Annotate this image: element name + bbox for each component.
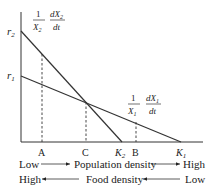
food-low-label: Low	[185, 172, 205, 186]
svg-text:1: 1	[36, 9, 41, 19]
svg-text:dX2: dX2	[50, 9, 63, 20]
svg-text:dX1: dX1	[146, 93, 159, 104]
food-high-label: High	[19, 172, 41, 186]
pop-low-label: Low	[19, 157, 39, 171]
line-species-2	[21, 31, 122, 142]
svg-text:X2: X2	[32, 22, 42, 33]
svg-text:dt: dt	[53, 22, 61, 32]
pop-high-label: High	[183, 157, 205, 171]
label-r2: r2	[7, 25, 15, 39]
svg-text:X1: X1	[127, 106, 137, 117]
annotation-species-2: 1 X2 dX2 dt	[32, 9, 65, 33]
line-species-1	[21, 76, 181, 142]
svg-text:dt: dt	[149, 106, 157, 116]
pop-center-label: Population density	[74, 157, 156, 171]
annotation-species-1: 1 X1 dX1 dt	[127, 93, 161, 117]
food-center-label: Food density	[86, 172, 143, 186]
label-r1: r1	[7, 69, 15, 83]
legend-population-density: Low Population density High	[0, 157, 215, 171]
svg-text:1: 1	[131, 93, 136, 103]
legend-food-density: High Food density Low	[0, 172, 215, 186]
